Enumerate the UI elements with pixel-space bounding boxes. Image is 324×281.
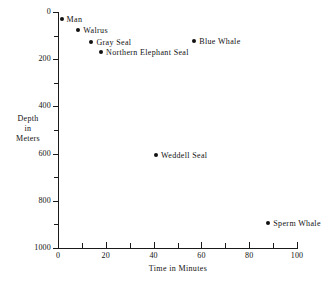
y-tick-major	[53, 12, 59, 13]
y-tick-major	[53, 154, 59, 155]
x-tick-major	[58, 242, 59, 248]
data-point[interactable]	[192, 39, 196, 43]
y-axis-title: Depth in Meters	[2, 114, 54, 144]
x-tick-minor	[130, 243, 131, 248]
x-tick-major	[297, 242, 298, 248]
x-tick-label: 40	[149, 251, 157, 260]
y-tick-minor	[54, 177, 59, 178]
data-point[interactable]	[76, 28, 80, 32]
x-tick-label: 20	[102, 251, 110, 260]
x-tick-minor	[273, 243, 274, 248]
x-tick-label: 80	[245, 251, 253, 260]
data-point-label: Man	[67, 15, 83, 24]
x-axis-line	[58, 248, 298, 249]
data-point[interactable]	[60, 17, 64, 21]
y-tick-minor	[54, 130, 59, 131]
data-point[interactable]	[266, 221, 270, 225]
y-tick-minor	[54, 224, 59, 225]
x-tick-major	[154, 242, 155, 248]
x-tick-label: 0	[56, 251, 60, 260]
y-tick-major	[53, 106, 59, 107]
data-point-label: Gray Seal	[96, 37, 131, 46]
data-point-label: Walrus	[83, 25, 108, 34]
x-tick-label: 100	[291, 251, 304, 260]
y-tick-major	[53, 248, 59, 249]
x-axis-title: Time in Minutes	[58, 264, 298, 273]
y-tick-label: 1000	[34, 244, 51, 252]
data-point-label: Northern Elephant Seal	[106, 48, 189, 57]
x-tick-minor	[82, 243, 83, 248]
y-tick-label: 600	[38, 150, 51, 158]
y-tick-label: 0	[47, 8, 51, 16]
data-point-label: Sperm Whale	[273, 219, 320, 228]
y-tick-major	[53, 59, 59, 60]
x-tick-major	[201, 242, 202, 248]
data-point[interactable]	[154, 153, 158, 157]
y-tick-label: 800	[38, 197, 51, 205]
x-tick-minor	[178, 243, 179, 248]
data-point-label: Blue Whale	[199, 37, 240, 46]
x-tick-major	[106, 242, 107, 248]
y-tick-minor	[54, 36, 59, 37]
y-tick-major	[53, 201, 59, 202]
y-tick-minor	[54, 83, 59, 84]
y-axis-title-line-3: Meters	[2, 134, 54, 144]
y-axis-title-line-2: in	[2, 124, 54, 134]
y-tick-label: 400	[38, 102, 51, 110]
x-tick-label: 60	[197, 251, 205, 260]
y-axis-title-line-1: Depth	[2, 114, 54, 124]
data-point[interactable]	[89, 40, 93, 44]
x-tick-minor	[225, 243, 226, 248]
plot-area: 02004006008001000 020406080100 ManWalrus…	[58, 12, 297, 248]
y-tick-label: 200	[38, 55, 51, 63]
data-point[interactable]	[99, 50, 103, 54]
data-point-label: Weddell Seal	[161, 150, 207, 159]
scatter-plot-figure: Depth in Meters Time in Minutes 02004006…	[0, 0, 324, 281]
x-tick-major	[249, 242, 250, 248]
